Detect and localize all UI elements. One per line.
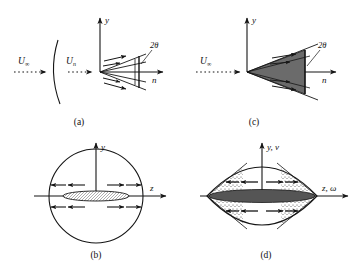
panel-a-angle-label: 2θ — [150, 40, 158, 50]
panel-a-shock-arc — [53, 40, 60, 104]
figure-root: y n U∞ Un — [0, 0, 356, 268]
panel-b: y z (b) — [34, 142, 166, 261]
four-panel-figure: y n U∞ Un — [0, 0, 356, 268]
panel-c-n-axis-label: n — [322, 75, 327, 85]
panel-b-core-ellipse — [63, 191, 129, 201]
panel-a-normal-label: Un — [66, 56, 76, 67]
panel-a-fan-arrow-4 — [104, 83, 126, 89]
panel-d-z-axis-label: z, ω — [321, 183, 336, 193]
panel-c: y n U∞ 2θ (c) — [196, 15, 336, 128]
panel-a: y n U∞ Un — [14, 15, 163, 128]
panel-c-angle-label: 2θ — [318, 40, 326, 50]
panel-b-z-axis-label: z — [149, 183, 154, 193]
panel-b-caption: (b) — [90, 250, 101, 261]
panel-c-angle-leader — [307, 50, 320, 66]
panel-d: y, v z, ω (d) — [200, 142, 348, 261]
panel-a-freestream-label: U∞ — [18, 56, 30, 67]
panel-c-y-axis-label: y — [251, 15, 256, 25]
panel-a-caption: (a) — [74, 117, 85, 128]
panel-a-y-axis-label: y — [104, 15, 109, 25]
panel-a-angle-leader — [141, 50, 152, 64]
panel-a-fan-arrow-1 — [104, 56, 126, 61]
panel-c-freestream-label: U∞ — [200, 56, 212, 67]
panel-c-caption: (c) — [249, 117, 260, 128]
panel-d-y-axis-label: y, v — [266, 142, 279, 152]
panel-a-n-axis-label: n — [152, 75, 157, 85]
panel-d-core-ellipse — [209, 190, 315, 203]
panel-d-caption: (d) — [260, 250, 271, 261]
panel-b-y-axis-label: y — [100, 142, 105, 152]
panel-c-wedge — [247, 50, 305, 94]
